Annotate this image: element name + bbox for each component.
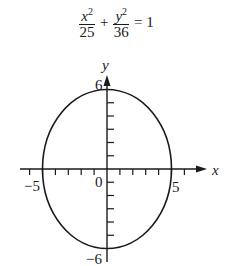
y-axis-arrow-icon bbox=[104, 75, 111, 86]
x-neg-5-label: −5 bbox=[24, 178, 40, 194]
ellipse-graph: x y 0 −5 5 6 −6 bbox=[0, 0, 234, 266]
x-axis-arrow-icon bbox=[196, 166, 207, 173]
y-pos-6-label: 6 bbox=[95, 77, 103, 93]
origin-label: 0 bbox=[95, 174, 103, 190]
x-pos-5-label: 5 bbox=[172, 179, 180, 195]
y-axis-label: y bbox=[100, 57, 109, 73]
y-neg-6-label: −6 bbox=[86, 251, 102, 266]
x-axis-label: x bbox=[211, 162, 219, 178]
